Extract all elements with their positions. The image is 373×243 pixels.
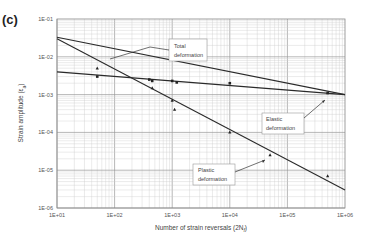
annotation-plastic: Plastic deformation: [193, 160, 265, 185]
annotation-plastic-line1: Plastic: [198, 167, 214, 173]
square-marker: [96, 75, 99, 78]
x-axis-label: Number of strain reversals (2Nf): [155, 224, 247, 233]
x-tick-label: 1E+06: [337, 212, 353, 218]
y-tick-label: 1E-03: [38, 92, 53, 98]
x-tick-label: 1E+03: [164, 212, 180, 218]
y-tick-label: 1E-06: [38, 205, 53, 211]
triangle-marker: [326, 174, 329, 177]
triangle-marker: [96, 66, 99, 69]
y-tick-label: 1E-02: [38, 54, 53, 60]
annotation-plastic-line2: deformation: [198, 176, 227, 182]
square-marker: [171, 80, 174, 83]
triangle-marker: [173, 108, 176, 111]
annotation-elastic-line2: deformation: [266, 125, 295, 131]
y-tick-label: 1E-05: [38, 167, 53, 173]
annotation-total-line2: deformation: [174, 52, 203, 58]
annotation-total-line1: Total: [174, 43, 186, 49]
y-axis-label: Strain amplitude (εa): [17, 84, 26, 143]
square-marker: [175, 81, 178, 84]
chart-figure: (c) 1E+011E+021E+031E+041E+051E+061E-011…: [0, 0, 373, 243]
annotation-elastic-line1: Elastic: [266, 116, 282, 122]
y-tick-label: 1E-01: [38, 16, 53, 22]
x-tick-label: 1E+02: [107, 212, 123, 218]
plot-area: 1E+011E+021E+031E+041E+051E+061E-011E-02…: [0, 0, 373, 243]
square-marker: [151, 80, 154, 83]
square-marker: [229, 82, 232, 85]
x-tick-label: 1E+01: [49, 212, 65, 218]
y-tick-label: 1E-04: [38, 129, 53, 135]
triangle-marker: [268, 153, 271, 156]
x-tick-label: 1E+04: [222, 212, 238, 218]
x-tick-label: 1E+05: [279, 212, 295, 218]
square-marker: [326, 92, 329, 95]
annotation-elastic: Elastic deformation: [262, 100, 325, 134]
square-marker: [148, 78, 151, 81]
